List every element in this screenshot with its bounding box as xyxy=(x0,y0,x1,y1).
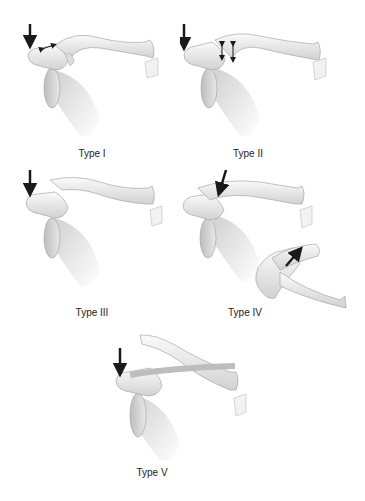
panel-type-2: Type II xyxy=(180,0,365,165)
label-type-4: Type IV xyxy=(195,307,295,318)
type-3-illustration xyxy=(0,160,182,325)
glenoid xyxy=(44,68,60,108)
panel-type-4: Type IV xyxy=(180,160,365,325)
label-type-1: Type I xyxy=(42,148,142,159)
glenoid xyxy=(200,218,216,258)
scapula xyxy=(210,215,260,281)
superior-view-inset xyxy=(256,244,346,308)
acromion xyxy=(184,42,225,70)
acromion xyxy=(183,194,224,220)
label-type-5: Type V xyxy=(102,467,202,478)
glenoid xyxy=(44,218,60,258)
label-type-2: Type II xyxy=(198,148,298,159)
label-type-3: Type III xyxy=(42,307,142,318)
sternum-fragment xyxy=(313,58,326,80)
clavicle-displaced xyxy=(50,177,154,204)
panel-type-3: Type III xyxy=(0,160,182,325)
sternum-fragment xyxy=(300,206,312,228)
type-4-illustration xyxy=(180,160,365,325)
acromion xyxy=(26,192,68,218)
sternum-fragment xyxy=(150,206,162,226)
panel-type-1: Type I xyxy=(0,0,182,165)
clavicle xyxy=(215,34,320,60)
panel-type-5: Type V xyxy=(90,320,280,501)
sternum-fragment xyxy=(234,394,246,416)
glenoid xyxy=(201,68,217,108)
type-2-illustration xyxy=(180,0,365,165)
type-1-illustration xyxy=(0,0,182,165)
sternum-fragment xyxy=(145,58,158,78)
glenoid xyxy=(130,393,146,437)
scapula xyxy=(210,68,260,136)
